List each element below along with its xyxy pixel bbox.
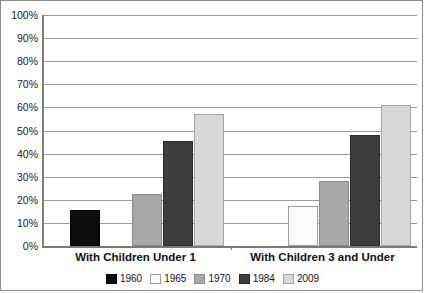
legend-label-1960: 1960	[120, 274, 142, 284]
gridline-80	[44, 61, 417, 62]
y-tick-label-50: 50%	[4, 126, 38, 137]
y-tick-label-0: 0%	[4, 241, 38, 252]
y-tick-label-30: 30%	[4, 172, 38, 183]
bar-1970-group1	[132, 194, 162, 246]
legend-label-1970: 1970	[208, 274, 230, 284]
y-tick-label-60: 60%	[4, 102, 38, 113]
bar-1984-group2	[350, 135, 380, 246]
category-label-2: With Children 3 and Under	[229, 251, 416, 264]
y-tick-label-100: 100%	[4, 10, 38, 21]
y-tick-label-40: 40%	[4, 149, 38, 160]
legend-swatch-1965	[150, 274, 161, 284]
legend-item-2009[interactable]: 2009	[283, 274, 319, 284]
y-tick-label-10: 10%	[4, 218, 38, 229]
legend-swatch-1984	[239, 274, 250, 284]
bar-1960-group1	[70, 210, 100, 246]
legend-item-1960[interactable]: 1960	[106, 274, 142, 284]
bar-1970-group2	[319, 181, 349, 246]
chart-container: 100%90%80%70%60%50%40%30%20%10%0% With C…	[0, 0, 423, 291]
x-axis-category-labels: With Children Under 1With Children 3 and…	[42, 251, 415, 267]
legend-item-1965[interactable]: 1965	[150, 274, 186, 284]
y-tick-label-20: 20%	[4, 195, 38, 206]
bar-1965-group2	[288, 206, 318, 246]
legend-swatch-2009	[283, 274, 294, 284]
legend-label-2009: 2009	[297, 274, 319, 284]
x-axis-tick	[231, 246, 232, 250]
gridline-60	[44, 107, 417, 108]
legend-item-1970[interactable]: 1970	[194, 274, 230, 284]
y-tick-label-80: 80%	[4, 56, 38, 67]
legend-label-1984: 1984	[253, 274, 275, 284]
legend-swatch-1960	[106, 274, 117, 284]
bar-1984-group1	[163, 141, 193, 246]
bar-2009-group1	[194, 114, 224, 246]
chart-legend: 19601965197019842009	[1, 272, 424, 286]
category-label-1: With Children Under 1	[42, 251, 229, 264]
y-tick-label-90: 90%	[4, 33, 38, 44]
bar-2009-group2	[381, 105, 411, 246]
y-tick-label-70: 70%	[4, 79, 38, 90]
gridline-100	[44, 15, 417, 16]
y-axis-tick-labels: 100%90%80%70%60%50%40%30%20%10%0%	[1, 15, 38, 246]
legend-swatch-1970	[194, 274, 205, 284]
legend-item-1984[interactable]: 1984	[239, 274, 275, 284]
plot-area	[42, 15, 417, 248]
gridline-90	[44, 38, 417, 39]
gridline-50	[44, 131, 417, 132]
legend-label-1965: 1965	[164, 274, 186, 284]
gridline-70	[44, 84, 417, 85]
